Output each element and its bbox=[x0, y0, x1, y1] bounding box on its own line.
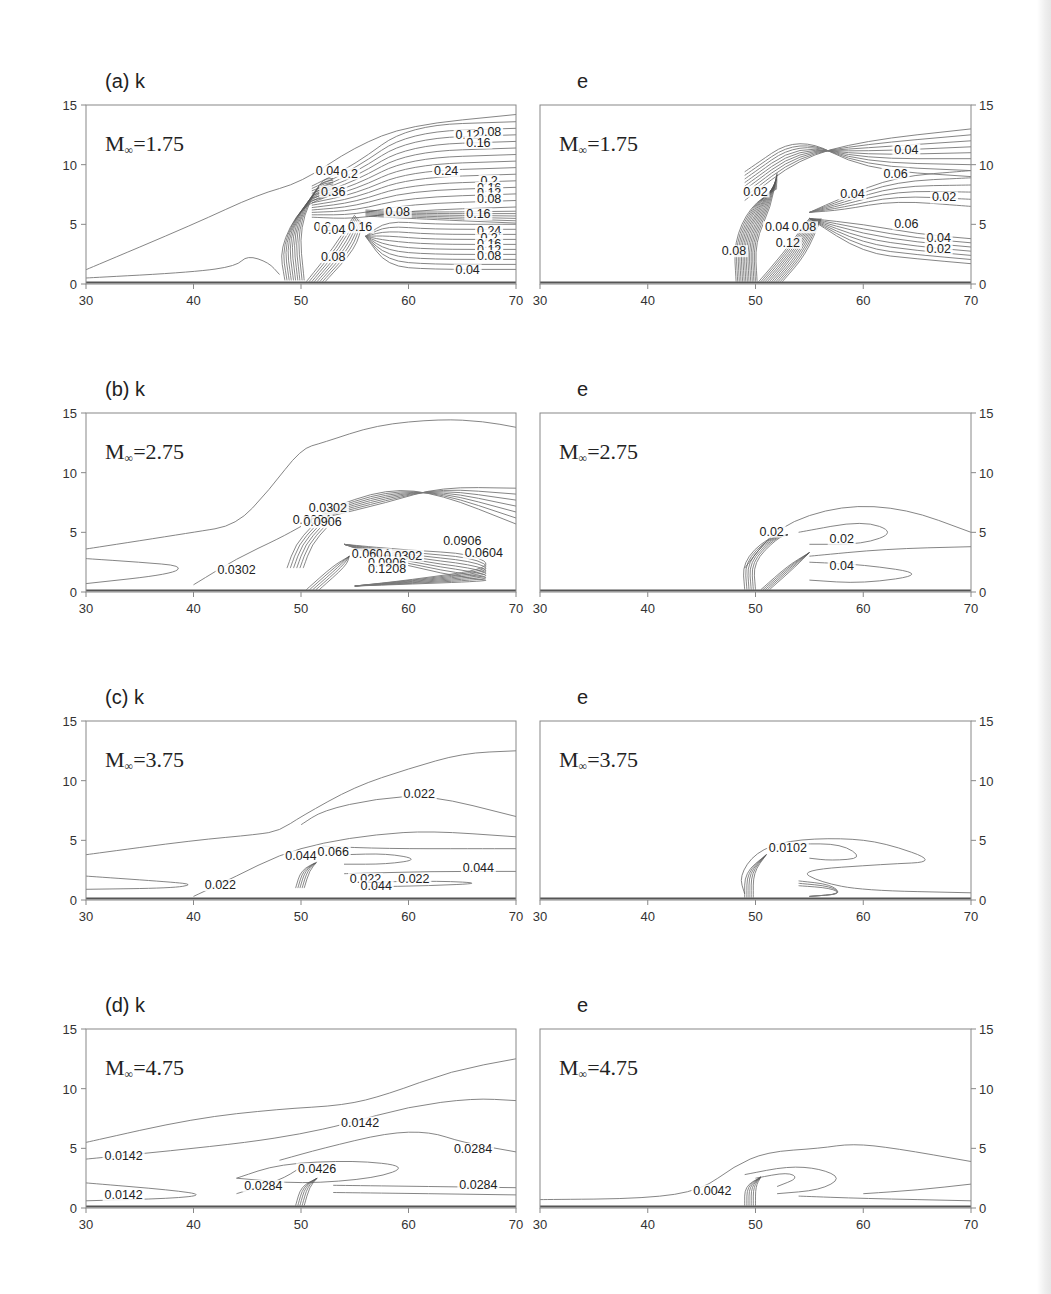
y-tick-label: 0 bbox=[979, 277, 986, 292]
x-tick-label: 50 bbox=[294, 1217, 308, 1232]
y-tick-label: 15 bbox=[63, 714, 77, 729]
mach-annotation: M∞=2.75 bbox=[559, 439, 638, 465]
y-tick-label: 5 bbox=[979, 525, 986, 540]
contour-value-label: 0.02 bbox=[759, 525, 783, 539]
contour-value-label: 0.04 bbox=[830, 559, 854, 573]
x-tick-label: 40 bbox=[186, 1217, 200, 1232]
panel-title-e: e bbox=[577, 378, 588, 401]
x-tick-label: 60 bbox=[856, 293, 870, 308]
contour-value-label: 0.0102 bbox=[769, 841, 807, 855]
x-tick-label: 60 bbox=[401, 1217, 415, 1232]
panel-title-k: (d) k bbox=[105, 994, 145, 1017]
mach-annotation: M∞=4.75 bbox=[559, 1055, 638, 1081]
panel-title-k: (c) k bbox=[105, 686, 144, 709]
x-tick-label: 30 bbox=[79, 909, 93, 924]
y-tick-label: 0 bbox=[70, 277, 77, 292]
y-tick-label: 15 bbox=[63, 98, 77, 113]
contour-value-label: 0.16 bbox=[466, 136, 490, 150]
y-tick-label: 5 bbox=[70, 525, 77, 540]
x-tick-label: 50 bbox=[748, 909, 762, 924]
y-tick-label: 0 bbox=[70, 585, 77, 600]
x-tick-label: 30 bbox=[533, 601, 547, 616]
contour-value-label: 0.0142 bbox=[341, 1116, 379, 1130]
y-tick-label: 10 bbox=[979, 774, 993, 789]
contour-value-label: 0.066 bbox=[318, 845, 349, 859]
y-tick-label: 15 bbox=[979, 406, 993, 421]
contour-lines bbox=[540, 1145, 971, 1206]
y-tick-label: 10 bbox=[979, 1082, 993, 1097]
y-tick-label: 10 bbox=[63, 1082, 77, 1097]
y-tick-label: 10 bbox=[63, 466, 77, 481]
contour-value-label: 0.044 bbox=[361, 879, 392, 893]
contour-value-label: 0.08 bbox=[477, 249, 501, 263]
contour-value-label: 0.04 bbox=[894, 143, 918, 157]
contour-lines bbox=[744, 506, 971, 589]
contour-value-label: 0.0604 bbox=[465, 546, 503, 560]
x-tick-label: 40 bbox=[641, 909, 655, 924]
x-tick-label: 60 bbox=[856, 1217, 870, 1232]
x-tick-label: 50 bbox=[294, 601, 308, 616]
x-tick-label: 60 bbox=[401, 293, 415, 308]
contour-value-label: 0.0042 bbox=[693, 1184, 731, 1198]
contour-plot-b-e: 3040506070051015M∞=2.750.020.020.04 bbox=[540, 413, 971, 592]
page-edge-shadow bbox=[1037, 0, 1051, 1294]
contour-plot-a-e: 3040506070051015M∞=1.750.040.060.040.020… bbox=[540, 105, 971, 284]
contour-value-label: 0.02 bbox=[927, 242, 951, 256]
contour-value-label: 0.02 bbox=[743, 185, 767, 199]
contour-value-label: 0.02 bbox=[932, 190, 956, 204]
contour-plot-c-e: 3040506070051015M∞=3.750.0102 bbox=[540, 721, 971, 900]
x-tick-label: 50 bbox=[748, 293, 762, 308]
contour-value-label: 0.022 bbox=[398, 872, 429, 886]
y-tick-label: 0 bbox=[979, 893, 986, 908]
contour-plot-b-k: 3040506070051015M∞=2.750.03020.06040.090… bbox=[86, 413, 516, 592]
mach-annotation: M∞=1.75 bbox=[105, 131, 184, 157]
x-tick-label: 60 bbox=[856, 601, 870, 616]
x-tick-label: 50 bbox=[748, 601, 762, 616]
x-tick-label: 60 bbox=[856, 909, 870, 924]
contour-value-label: 0.08 bbox=[386, 205, 410, 219]
contour-value-label: 0.06 bbox=[894, 217, 918, 231]
y-tick-label: 5 bbox=[70, 1141, 77, 1156]
contour-value-label: 0.12 bbox=[776, 236, 800, 250]
contour-value-label: 0.36 bbox=[321, 185, 345, 199]
contour-value-label: 0.04 bbox=[316, 164, 340, 178]
y-tick-label: 0 bbox=[70, 893, 77, 908]
contour-value-label: 0.16 bbox=[466, 207, 490, 221]
contour-value-label: 0.022 bbox=[404, 787, 435, 801]
contour-value-label: 0.08 bbox=[321, 250, 345, 264]
contour-value-label: 0.04 bbox=[840, 187, 864, 201]
y-tick-label: 10 bbox=[979, 158, 993, 173]
y-tick-label: 10 bbox=[63, 774, 77, 789]
x-tick-label: 40 bbox=[186, 293, 200, 308]
mach-annotation: M∞=3.75 bbox=[559, 747, 638, 773]
x-tick-label: 30 bbox=[79, 1217, 93, 1232]
contour-value-label: 0.02 bbox=[830, 532, 854, 546]
contour-lines bbox=[86, 751, 516, 897]
y-tick-label: 15 bbox=[979, 98, 993, 113]
mach-annotation: M∞=1.75 bbox=[559, 131, 638, 157]
y-tick-label: 0 bbox=[979, 1201, 986, 1216]
y-tick-label: 5 bbox=[979, 217, 986, 232]
contour-plot-a-k: 3040506070051015M∞=1.750.080.120.160.240… bbox=[86, 105, 516, 284]
x-tick-label: 40 bbox=[641, 601, 655, 616]
y-tick-label: 5 bbox=[70, 217, 77, 232]
y-tick-label: 10 bbox=[979, 466, 993, 481]
x-tick-label: 60 bbox=[401, 909, 415, 924]
x-tick-label: 60 bbox=[401, 601, 415, 616]
x-tick-label: 30 bbox=[79, 293, 93, 308]
x-tick-label: 30 bbox=[533, 1217, 547, 1232]
y-tick-label: 5 bbox=[979, 1141, 986, 1156]
y-tick-label: 5 bbox=[70, 833, 77, 848]
contour-value-label: 0.08 bbox=[477, 192, 501, 206]
contour-value-label: 0.04 bbox=[765, 220, 789, 234]
contour-value-label: 0.08 bbox=[722, 244, 746, 258]
panel-title-e: e bbox=[577, 70, 588, 93]
y-tick-label: 15 bbox=[979, 1022, 993, 1037]
contour-value-label: 0.0142 bbox=[105, 1188, 143, 1202]
x-tick-label: 70 bbox=[509, 909, 523, 924]
contour-value-label: 0.16 bbox=[348, 220, 372, 234]
contour-lines bbox=[735, 129, 971, 282]
panel-title-e: e bbox=[577, 994, 588, 1017]
contour-value-label: 0.2 bbox=[341, 167, 358, 181]
contour-value-label: 0.04 bbox=[455, 263, 479, 277]
